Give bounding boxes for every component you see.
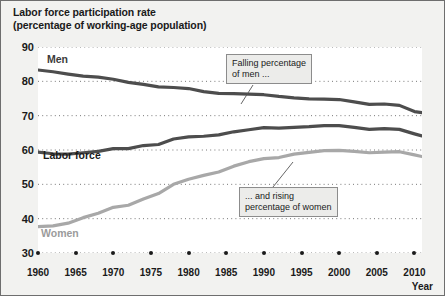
x-axis-tick-marker — [111, 251, 115, 255]
y-axis-tick-label: 70 — [12, 110, 34, 122]
x-axis-tick-marker — [262, 251, 266, 255]
x-axis-tick-marker — [412, 251, 416, 255]
annotation-women-note: ... and rising percentage of women — [239, 187, 338, 217]
x-axis-tick-marker — [300, 251, 304, 255]
x-axis-tick-marker — [149, 251, 153, 255]
x-axis-tick-label: 1985 — [206, 267, 246, 278]
series-line-women — [38, 150, 422, 226]
x-axis-tick-label: 1965 — [56, 267, 96, 278]
x-axis-tick-label: 1960 — [18, 267, 58, 278]
x-axis-tick-label: 2000 — [319, 267, 359, 278]
x-axis-title: Year — [412, 281, 433, 292]
x-axis-tick-label: 1970 — [93, 267, 133, 278]
chart-figure: Labor force participation rate (percenta… — [0, 0, 445, 296]
x-axis-tick-label: 1995 — [282, 267, 322, 278]
x-axis-tick-marker — [375, 251, 379, 255]
y-axis-tick-label: 50 — [12, 178, 34, 190]
series-label-labor-force: Labor force — [43, 149, 101, 161]
annotation-women-line2: percentage of women — [245, 202, 332, 213]
y-axis-tick-label: 60 — [12, 144, 34, 156]
x-axis-tick-label: 1980 — [169, 267, 209, 278]
chart-title-block: Labor force participation rate (percenta… — [13, 6, 206, 31]
annotation-men-note: Falling percentage of men ... — [226, 54, 312, 84]
x-axis-tick-marker — [187, 251, 191, 255]
y-axis-tick-label: 80 — [12, 75, 34, 87]
annotation-women-line1: ... and rising — [245, 191, 332, 202]
x-axis-tick-marker — [224, 251, 228, 255]
y-axis-tick-label: 40 — [12, 213, 34, 225]
y-axis-tick-label: 30 — [12, 247, 34, 259]
y-axis-tick-label: 90 — [12, 41, 34, 53]
x-axis-tick-marker — [74, 251, 78, 255]
annotation-men-line1: Falling percentage — [232, 58, 306, 69]
chart-subtitle: (percentage of working-age population) — [13, 19, 206, 32]
x-axis-tick-label: 1975 — [131, 267, 171, 278]
x-axis-tick-label: 2005 — [357, 267, 397, 278]
series-label-men: Men — [47, 53, 68, 65]
page-title: Labor force participation rate — [13, 6, 206, 19]
x-axis-tick-label: 1990 — [244, 267, 284, 278]
series-label-women: Women — [41, 227, 79, 239]
x-axis-tick-label: 2010 — [394, 267, 434, 278]
x-axis-tick-marker — [36, 251, 40, 255]
annotation-men-line2: of men ... — [232, 69, 306, 80]
x-axis-tick-marker — [337, 251, 341, 255]
